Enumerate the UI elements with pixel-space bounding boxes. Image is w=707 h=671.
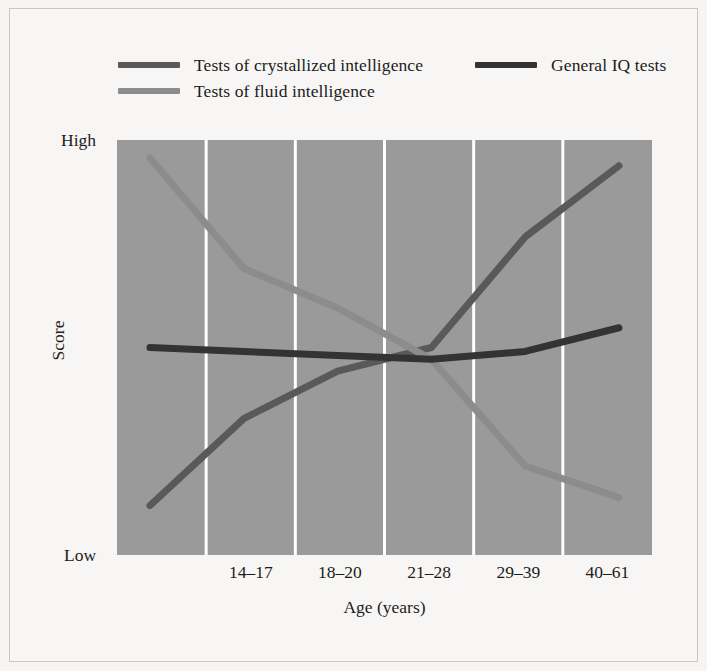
y-axis-low-label: Low — [64, 545, 96, 566]
legend-row-bottom: Tests of fluid intelligence — [118, 78, 678, 104]
gridlines-group — [206, 140, 563, 555]
legend-swatch-crystallized-icon — [118, 62, 180, 68]
legend-entry-fluid: Tests of fluid intelligence — [118, 81, 375, 102]
x-axis-tick-2: 18–20 — [295, 562, 385, 583]
plot-area — [117, 140, 652, 555]
legend-label-general-iq: General IQ tests — [551, 55, 666, 76]
legend-label-crystallized: Tests of crystallized intelligence — [194, 55, 423, 76]
y-axis-title: Score — [48, 281, 69, 401]
legend-swatch-general-iq-icon — [475, 62, 537, 68]
legend-entry-crystallized: Tests of crystallized intelligence — [118, 55, 423, 76]
y-axis-high-label: High — [61, 130, 96, 151]
x-axis-tick-5: 40–61 — [562, 562, 652, 583]
x-axis-tick-3: 21–28 — [384, 562, 474, 583]
legend-row-top: Tests of crystallized intelligence Gener… — [118, 52, 678, 78]
figure-container: Tests of crystallized intelligence Gener… — [0, 0, 707, 671]
x-axis-tick-labels: 14–1718–2021–2829–3940–61 — [117, 562, 652, 588]
x-axis-title: Age (years) — [117, 597, 652, 618]
legend-entry-general-iq: General IQ tests — [475, 55, 666, 76]
legend-swatch-fluid-icon — [118, 88, 180, 94]
x-axis-tick-1: 14–17 — [206, 562, 296, 583]
legend-label-fluid: Tests of fluid intelligence — [194, 81, 375, 102]
x-axis-tick-4: 29–39 — [473, 562, 563, 583]
chart-svg — [117, 140, 652, 555]
chart-legend: Tests of crystallized intelligence Gener… — [118, 52, 678, 104]
